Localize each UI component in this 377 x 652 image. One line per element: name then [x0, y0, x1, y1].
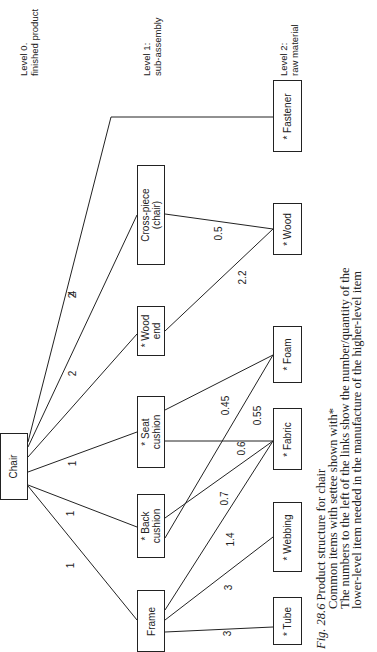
node-label: * Foam	[282, 338, 293, 370]
node-label: * Wood	[282, 213, 293, 246]
node-label: * Tube	[282, 607, 293, 636]
qty-frame-tube: 3	[222, 631, 233, 637]
qty-chair-back-cushion: 1	[65, 511, 76, 517]
node-label: Cross-piece (chair)	[140, 183, 162, 247]
node-tube: * Tube	[273, 597, 302, 645]
node-frame: Frame	[137, 590, 165, 652]
qty-chair-fastener-visible: 4	[67, 291, 78, 297]
qty-chair-frame: 1	[65, 563, 76, 569]
qty-seat-foam: 0.45	[220, 396, 231, 415]
level-1-title: Level 1:	[141, 17, 152, 76]
caption-fig-number: Fig. 28.6	[314, 604, 328, 649]
node-label: * Back cushion	[140, 496, 162, 556]
qty-seat-fabric: 0.6	[236, 442, 247, 456]
qty-chair-wood-end: 2	[67, 371, 78, 377]
node-foam: * Foam	[273, 326, 302, 383]
qty-crosspiece-wood: 0.5	[213, 227, 224, 241]
level-2-subtitle: raw material	[289, 24, 300, 76]
qty-woodend-wood: 2.2	[237, 271, 248, 285]
node-fabric: * Fabric	[273, 408, 302, 470]
level-1-label: Level 1: sub-assembly	[141, 17, 163, 76]
node-back-cushion: * Back cushion	[137, 494, 165, 558]
node-chair: Chair	[0, 433, 28, 500]
level-1-subtitle: sub-assembly	[152, 17, 163, 76]
node-fastener: * Fastener	[273, 80, 302, 152]
level-0-subtitle: finished product	[29, 9, 40, 76]
node-label: * Seat cushion	[140, 402, 162, 462]
figure-caption: Fig. 28.6 Product structure for chair Co…	[315, 267, 363, 649]
level-0-title: Level 0.	[18, 9, 29, 76]
qty-frame-webbing: 3	[223, 585, 234, 591]
level-2-label: Level 2: raw material	[278, 24, 300, 76]
qty-back-foam: 0.55	[252, 406, 263, 425]
qty-back-fabric: 0.7	[219, 492, 230, 506]
level-0-label: Level 0. finished product	[18, 9, 40, 76]
node-seat-cushion: * Seat cushion	[137, 396, 165, 468]
node-label: Chair	[9, 455, 20, 479]
level-2-title: Level 2:	[278, 24, 289, 76]
node-label: * Fastener	[282, 93, 293, 139]
node-label: Frame	[146, 607, 157, 636]
node-label: * Wood end	[140, 308, 162, 354]
caption-line-4: lower-level item needed in the manufactu…	[351, 267, 363, 649]
node-webbing: * Webbing	[273, 502, 302, 572]
qty-chair-seat-cushion: 1	[67, 461, 78, 467]
qty-frame-fabric: 1.4	[225, 533, 236, 547]
node-label: * Fabric	[282, 422, 293, 456]
node-cross-piece: Cross-piece (chair)	[137, 165, 165, 265]
node-wood-end: * Wood end	[137, 306, 165, 356]
node-wood: * Wood	[273, 203, 302, 255]
node-label: * Webbing	[282, 514, 293, 560]
